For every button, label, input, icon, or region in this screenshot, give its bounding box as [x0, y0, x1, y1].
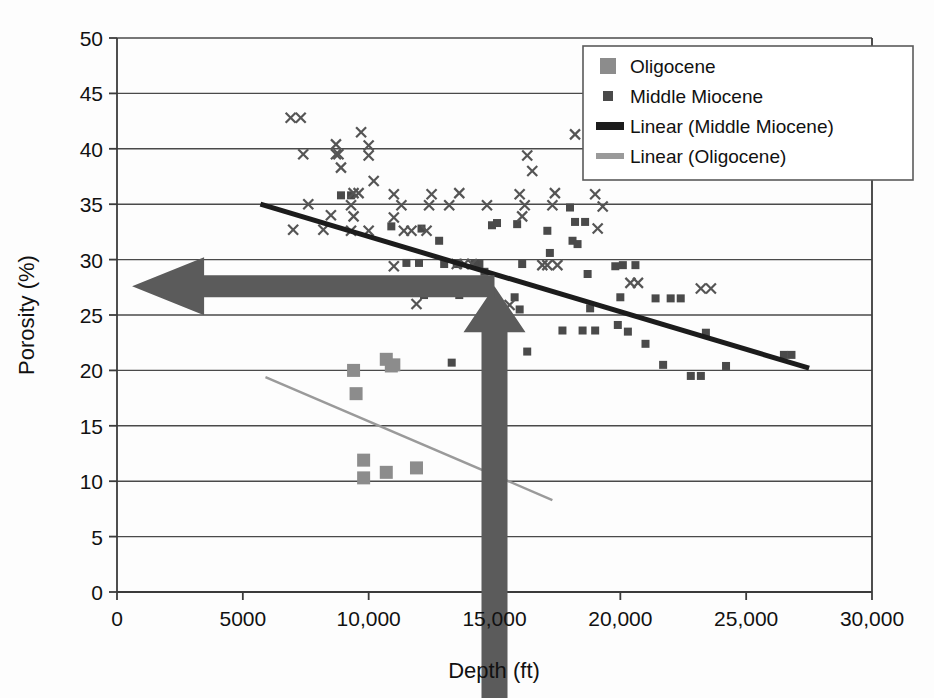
data-point: [619, 261, 627, 269]
x-axis-tick-labels: 0500010,00015,00020,00025,00030,000: [111, 607, 904, 630]
y-axis-tick-labels: 05101520253035404550: [80, 27, 103, 604]
data-point: [380, 466, 393, 479]
data-point: [516, 305, 524, 313]
x-tick-label-25000: 25,000: [714, 607, 778, 630]
data-point: [624, 328, 632, 336]
data-point: [543, 227, 551, 235]
data-point: [347, 364, 360, 377]
data-point: [350, 387, 363, 400]
legend-label: Linear (Middle Miocene): [630, 116, 834, 137]
y-tick-label-30: 30: [80, 249, 103, 272]
data-point: [415, 259, 423, 267]
y-tick-label-40: 40: [80, 138, 103, 161]
data-point: [546, 249, 554, 257]
data-point: [667, 294, 675, 302]
y-tick-label-25: 25: [80, 304, 103, 327]
x-tick-label-20000: 20,000: [588, 607, 652, 630]
data-point: [571, 218, 579, 226]
data-point: [581, 218, 589, 226]
data-point: [410, 461, 423, 474]
data-point: [687, 372, 695, 380]
data-point: [493, 219, 501, 227]
y-tick-label-5: 5: [91, 526, 103, 549]
data-point: [357, 454, 370, 467]
y-tick-label-10: 10: [80, 470, 103, 493]
data-point: [518, 260, 526, 268]
data-point: [659, 361, 667, 369]
data-point: [387, 222, 395, 230]
data-point: [574, 240, 582, 248]
legend-label: Linear (Oligocene): [630, 146, 786, 167]
data-point: [697, 372, 705, 380]
x-tick-label-15000: 15,000: [462, 607, 526, 630]
y-tick-label-35: 35: [80, 193, 103, 216]
y-axis-tickmarks: [109, 38, 117, 592]
x-tick-label-30000: 30,000: [840, 607, 904, 630]
x-tick-label-5000: 5000: [219, 607, 266, 630]
data-point: [402, 259, 410, 267]
chart-container: 05101520253035404550 0500010,00015,00020…: [0, 0, 934, 698]
data-point: [631, 261, 639, 269]
y-tick-label-50: 50: [80, 27, 103, 50]
y-tick-label-20: 20: [80, 359, 103, 382]
data-point: [337, 191, 345, 199]
legend-label: Oligocene: [630, 56, 716, 77]
data-point: [523, 348, 531, 356]
y-tick-label-0: 0: [91, 581, 103, 604]
data-point: [616, 293, 624, 301]
y-tick-label-45: 45: [80, 82, 103, 105]
data-point: [448, 359, 456, 367]
data-point: [387, 358, 400, 371]
data-point: [611, 262, 619, 270]
data-point: [642, 340, 650, 348]
y-axis-title: Porosity (%): [14, 255, 39, 375]
data-point: [566, 204, 574, 212]
x-tick-label-0: 0: [111, 607, 123, 630]
data-point: [787, 351, 795, 359]
x-axis-title: Depth (ft): [448, 658, 540, 683]
y-tick-label-15: 15: [80, 415, 103, 438]
legend-swatch-square: [600, 58, 616, 74]
chart-legend: OligoceneMiddle MioceneLinear (Middle Mi…: [583, 46, 913, 180]
data-point: [579, 327, 587, 335]
legend-item-linear-middle-miocene-[interactable]: Linear (Middle Miocene): [596, 116, 834, 137]
data-point: [614, 321, 622, 329]
data-point: [435, 237, 443, 245]
data-point: [677, 294, 685, 302]
x-tick-label-10000: 10,000: [337, 607, 401, 630]
legend-swatch-small-square: [603, 91, 613, 101]
data-point: [558, 327, 566, 335]
data-point: [652, 294, 660, 302]
porosity-depth-scatter-chart: 05101520253035404550 0500010,00015,00020…: [0, 0, 934, 698]
data-point: [357, 471, 370, 484]
data-point: [591, 327, 599, 335]
data-point: [584, 270, 592, 278]
data-point: [722, 362, 730, 370]
legend-label: Middle Miocene: [630, 86, 763, 107]
